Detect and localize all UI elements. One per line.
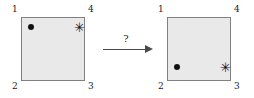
before-corner-label-top-right: 4 xyxy=(88,5,94,14)
before-square-panel: 1 4 2 3 ✳ xyxy=(0,0,110,98)
after-corner-label-top-right: 4 xyxy=(234,5,240,14)
transformation-figure: 1 4 2 3 ✳ ? 1 4 2 3 ✳ xyxy=(0,0,254,98)
transition-question-label: ? xyxy=(100,33,152,44)
asterisk-icon: ✳ xyxy=(220,62,231,73)
before-corner-label-top-left: 1 xyxy=(12,5,18,14)
filled-circle-icon xyxy=(28,24,34,30)
asterisk-icon: ✳ xyxy=(74,22,85,33)
before-corner-label-bottom-left: 2 xyxy=(12,82,18,91)
arrow-shaft xyxy=(103,49,146,50)
after-corner-label-bottom-right: 3 xyxy=(234,82,240,91)
after-corner-label-top-left: 1 xyxy=(158,5,164,14)
after-square-panel: 1 4 2 3 ✳ xyxy=(146,0,254,98)
filled-circle-icon xyxy=(174,64,180,70)
before-dot-mark xyxy=(26,22,37,33)
after-asterisk-mark: ✳ xyxy=(220,62,231,73)
before-corner-label-bottom-right: 3 xyxy=(88,82,94,91)
after-dot-mark xyxy=(172,62,183,73)
after-corner-label-bottom-left: 2 xyxy=(158,82,164,91)
before-asterisk-mark: ✳ xyxy=(74,22,85,33)
